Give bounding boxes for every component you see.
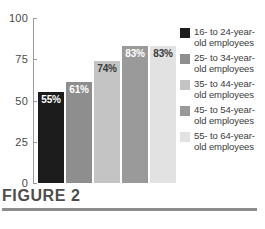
plot-area: 1007550250 55%61%74%83%83% <box>0 0 178 190</box>
y-axis-tick-label: 75 <box>0 54 28 65</box>
bar-value-label: 61% <box>66 84 92 95</box>
bar-value-label: 83% <box>150 48 176 59</box>
y-axis-tick <box>33 18 37 19</box>
bar: 83% <box>122 46 148 183</box>
legend-swatch-icon <box>180 106 190 116</box>
y-axis-tick-label: 100 <box>0 13 28 24</box>
figure-caption: FIGURE 2 <box>0 186 265 211</box>
y-axis-tick-label: 25 <box>0 137 28 148</box>
bar-series: 55%61%74%83%83% <box>38 18 178 183</box>
legend-swatch-icon <box>180 28 190 38</box>
legend-item-label: 35- to 44-year-old employees <box>194 78 265 100</box>
legend-item-label: 45- to 54-year-old employees <box>194 104 265 126</box>
y-axis-tick <box>33 59 37 60</box>
legend-item[interactable]: 16- to 24-year-old employees <box>180 26 265 48</box>
legend-swatch-icon <box>180 54 190 64</box>
bar-value-label: 74% <box>94 63 120 74</box>
legend-swatch-icon <box>180 132 190 142</box>
bar: 83% <box>150 46 176 183</box>
y-axis-tick <box>33 142 37 143</box>
legend-item[interactable]: 55- to 64-year-old employees <box>180 130 265 152</box>
legend-item[interactable]: 25- to 34-year-old employees <box>180 52 265 74</box>
legend-item-label: 25- to 34-year-old employees <box>194 52 265 74</box>
caption-divider <box>2 208 257 211</box>
legend-item-label: 16- to 24-year-old employees <box>194 26 265 48</box>
legend-item-label: 55- to 64-year-old employees <box>194 130 265 152</box>
bar-value-label: 55% <box>38 94 64 105</box>
bar-value-label: 83% <box>122 48 148 59</box>
bar: 74% <box>94 61 120 183</box>
caption-title: FIGURE 2 <box>0 186 265 205</box>
legend-item[interactable]: 45- to 54-year-old employees <box>180 104 265 126</box>
legend-swatch-icon <box>180 80 190 90</box>
bar: 61% <box>66 82 92 183</box>
y-axis-tick <box>33 101 37 102</box>
figure-container: 1007550250 55%61%74%83%83% 16- to 24-yea… <box>0 0 265 229</box>
bar: 55% <box>38 92 64 183</box>
legend-item[interactable]: 35- to 44-year-old employees <box>180 78 265 100</box>
chart-legend: 16- to 24-year-old employees25- to 34-ye… <box>180 26 265 156</box>
y-axis-tick-label: 50 <box>0 96 28 107</box>
y-axis-tick <box>33 183 37 184</box>
